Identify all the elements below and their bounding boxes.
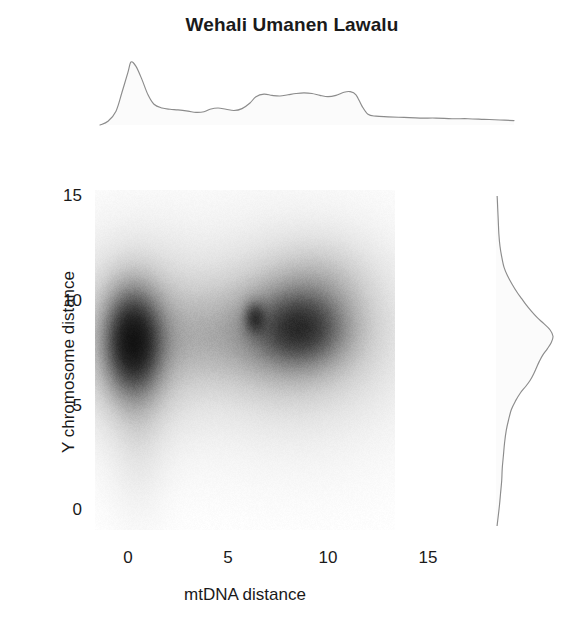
x-tick-label-5: 5	[223, 548, 232, 568]
x-tick-label-15: 15	[419, 548, 438, 568]
top-marginal-curve	[95, 48, 515, 130]
right-marginal-density-plot	[478, 196, 564, 526]
joint-density-plot	[95, 190, 395, 530]
chart-title: Wehali Umanen Lawalu	[0, 14, 584, 36]
top-marginal-density-plot	[95, 48, 515, 130]
joint-density-canvas	[95, 190, 395, 530]
x-tick-label-10: 10	[319, 548, 338, 568]
right-marginal-curve	[478, 196, 564, 526]
x-tick-label-0: 0	[123, 548, 132, 568]
figure-root: Wehali Umanen Lawalu 0 5 10 15 15 10 5 0…	[0, 0, 584, 630]
x-axis-title: mtDNA distance	[95, 585, 395, 605]
right-marginal-fill	[496, 196, 553, 526]
y-axis-title: Y chromosome distance	[59, 197, 79, 527]
